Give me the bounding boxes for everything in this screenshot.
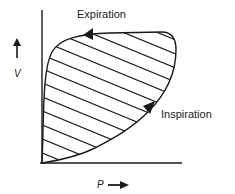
hatching [30, 0, 200, 194]
loop-outline [42, 32, 176, 163]
expiration-arrow-icon [83, 28, 93, 40]
x-axis-label: P [97, 179, 104, 190]
v-up-arrow-icon [13, 38, 21, 58]
y-axis-label: V [14, 68, 21, 79]
expiration-label: Expiration [77, 8, 126, 20]
pv-loop-diagram [0, 0, 235, 194]
p-right-arrow-icon [108, 181, 129, 189]
inspiration-label: Inspiration [161, 108, 212, 120]
